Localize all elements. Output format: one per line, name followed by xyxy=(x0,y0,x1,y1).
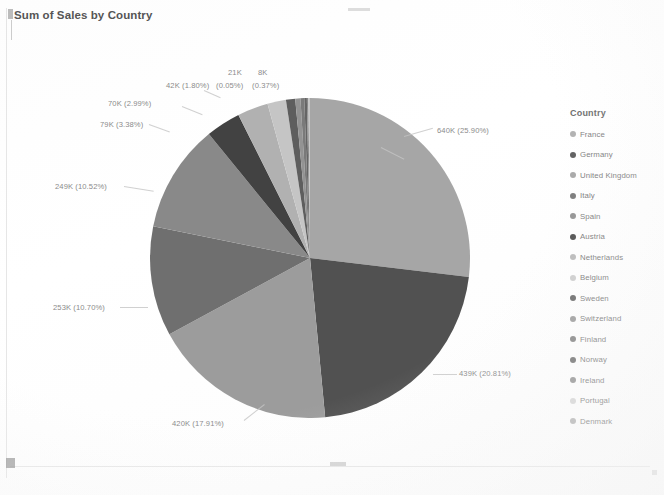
legend-item-label: Sweden xyxy=(580,294,609,303)
legend-item-label: Netherlands xyxy=(580,253,623,262)
legend-item-label: Switzerland xyxy=(580,314,621,323)
legend-item-list[interactable]: FranceGermanyUnited KingdomItalySpainAus… xyxy=(570,124,662,432)
data-label-norway: (0.37%) xyxy=(252,81,279,90)
scan-artifact-top xyxy=(348,8,370,11)
scan-artifact-bottom xyxy=(330,462,346,466)
legend-swatch-icon xyxy=(570,234,576,240)
legend-swatch-icon xyxy=(570,213,576,219)
legend-item-label: Denmark xyxy=(580,417,612,426)
legend-swatch-icon xyxy=(570,172,576,178)
legend-swatch-icon xyxy=(570,316,576,322)
leader-line-germany xyxy=(433,374,457,375)
legend-item[interactable]: Germany xyxy=(570,145,662,166)
legend-swatch-icon xyxy=(570,193,576,199)
legend-item-label: Austria xyxy=(580,232,605,241)
page-bottom-border xyxy=(10,466,650,467)
legend-item[interactable]: Ireland xyxy=(570,370,662,391)
leader-line-italy xyxy=(120,307,148,308)
data-label-austria: 79K (3.38%) xyxy=(100,120,143,129)
legend-item-label: United Kingdom xyxy=(580,171,637,180)
legend-item[interactable]: Switzerland xyxy=(570,309,662,330)
scan-artifact-right xyxy=(652,470,657,475)
legend-swatch-icon xyxy=(570,152,576,158)
legend-title: Country xyxy=(570,108,662,118)
legend-item[interactable]: Belgium xyxy=(570,268,662,289)
pie-slice[interactable] xyxy=(310,258,469,417)
data-label-germany: 439K (20.81%) xyxy=(459,369,511,378)
legend-item-label: Norway xyxy=(580,355,607,364)
pie-slice-group[interactable] xyxy=(150,98,470,418)
legend-item-label: Germany xyxy=(580,150,613,159)
pie-chart[interactable] xyxy=(148,96,472,420)
legend-item[interactable]: Finland xyxy=(570,329,662,350)
legend-item[interactable]: France xyxy=(570,124,662,145)
pie-slice[interactable] xyxy=(310,98,470,277)
legend-item[interactable]: United Kingdom xyxy=(570,165,662,186)
data-label-finland: 8K xyxy=(258,68,268,77)
page-left-border xyxy=(6,8,7,478)
legend-item[interactable]: Sweden xyxy=(570,288,662,309)
data-label-spain: 249K (10.52%) xyxy=(55,182,107,191)
legend-item-label: Ireland xyxy=(580,376,605,385)
legend-swatch-icon xyxy=(570,398,576,404)
legend-item-label: Finland xyxy=(580,335,606,344)
legend-item[interactable]: Spain xyxy=(570,206,662,227)
data-label-uk: 420K (17.91%) xyxy=(172,419,224,428)
legend-item[interactable]: Austria xyxy=(570,227,662,248)
legend-item[interactable]: Denmark xyxy=(570,411,662,432)
legend-item[interactable]: Netherlands xyxy=(570,247,662,268)
data-label-sweden: 21K xyxy=(228,68,242,77)
report-page: Sum of Sales by Country 640K (25.90%) 43… xyxy=(0,0,664,495)
data-label-belgium: 42K (1.80%) xyxy=(166,81,209,90)
legend-swatch-icon xyxy=(570,131,576,137)
visual-title-rule xyxy=(11,20,12,40)
data-label-switzerland: (0.05%) xyxy=(216,81,243,90)
legend-item-label: Spain xyxy=(580,212,600,221)
data-label-italy: 253K (10.70%) xyxy=(53,303,105,312)
legend[interactable]: Country FranceGermanyUnited KingdomItaly… xyxy=(570,108,662,432)
page-corner-mark xyxy=(6,458,15,468)
legend-swatch-icon xyxy=(570,357,576,363)
visual-handle-icon xyxy=(8,9,13,19)
page-title: Sum of Sales by Country xyxy=(14,9,152,21)
legend-item-label: Portugal xyxy=(580,396,610,405)
data-label-netherlands: 70K (2.99%) xyxy=(108,99,151,108)
legend-swatch-icon xyxy=(570,336,576,342)
legend-swatch-icon xyxy=(570,377,576,383)
legend-item-label: Italy xyxy=(580,191,595,200)
legend-item[interactable]: Portugal xyxy=(570,391,662,412)
legend-swatch-icon xyxy=(570,295,576,301)
pie-chart-svg[interactable] xyxy=(148,96,472,420)
legend-item-label: France xyxy=(580,130,605,139)
legend-item-label: Belgium xyxy=(580,273,609,282)
legend-swatch-icon xyxy=(570,275,576,281)
legend-swatch-icon xyxy=(570,254,576,260)
data-label-france: 640K (25.90%) xyxy=(437,126,489,135)
legend-item[interactable]: Norway xyxy=(570,350,662,371)
legend-swatch-icon xyxy=(570,418,576,424)
legend-item[interactable]: Italy xyxy=(570,186,662,207)
